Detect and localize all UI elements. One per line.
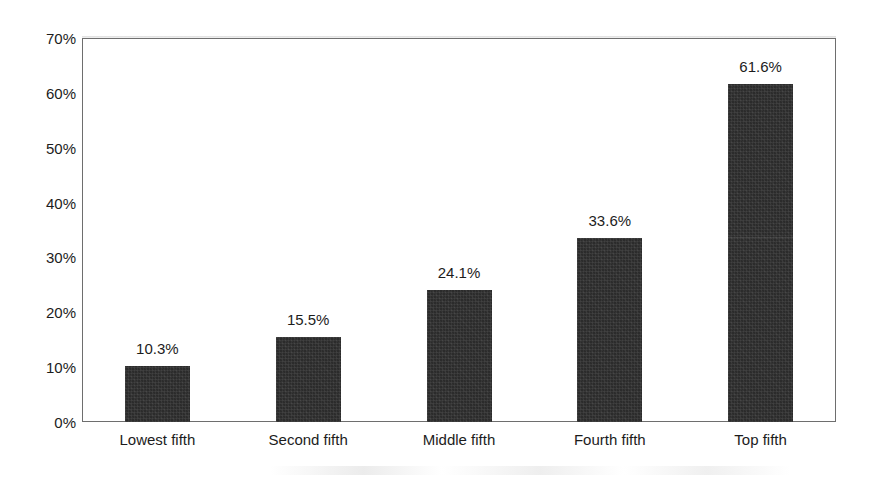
bar — [577, 238, 642, 422]
y-axis-tick-label: 70% — [0, 31, 76, 46]
y-axis-tick-label: 50% — [0, 140, 76, 155]
bar-value-label: 61.6% — [739, 59, 782, 74]
bar-value-label: 33.6% — [589, 213, 632, 228]
x-axis-category-label: Second fifth — [269, 432, 348, 449]
x-axis-category-label: Fourth fifth — [574, 432, 646, 449]
x-axis: Lowest fifthSecond fifthMiddle fifthFour… — [82, 432, 836, 458]
y-axis-tick-label: 20% — [0, 305, 76, 320]
bar-group: 61.6% — [728, 38, 793, 422]
bar-value-label: 10.3% — [136, 341, 179, 356]
bar — [728, 84, 793, 422]
bars-layer: 10.3%15.5%24.1%33.6%61.6% — [82, 38, 836, 422]
bar-group: 33.6% — [577, 38, 642, 422]
bar-chart-figure: 0%10%20%30%40%50%60%70% 10.3%15.5%24.1%3… — [0, 0, 870, 485]
bar-group: 24.1% — [427, 38, 492, 422]
y-axis-tick-label: 30% — [0, 250, 76, 265]
x-axis-category-label: Middle fifth — [423, 432, 496, 449]
y-axis-tick-label: 40% — [0, 195, 76, 210]
x-axis-category-label: Lowest fifth — [119, 432, 195, 449]
y-axis: 0%10%20%30%40%50%60%70% — [0, 38, 76, 422]
scan-smudge-artifact — [270, 466, 790, 475]
y-axis-tick-label: 0% — [0, 415, 76, 430]
bar — [427, 290, 492, 422]
bar-group: 15.5% — [276, 38, 341, 422]
y-axis-tick-label: 60% — [0, 85, 76, 100]
bar-value-label: 24.1% — [438, 265, 481, 280]
y-axis-tick-label: 10% — [0, 360, 76, 375]
bar — [125, 366, 190, 423]
scan-streak-artifact — [728, 237, 793, 238]
bar-value-label: 15.5% — [287, 312, 330, 327]
bar — [276, 337, 341, 422]
x-axis-category-label: Top fifth — [734, 432, 787, 449]
bar-group: 10.3% — [125, 38, 190, 422]
